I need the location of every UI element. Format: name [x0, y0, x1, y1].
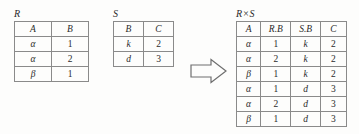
cell: k: [114, 37, 144, 52]
cell: β: [15, 67, 52, 82]
cell: β: [237, 112, 261, 127]
cell: k: [291, 67, 320, 82]
cell: α: [237, 37, 261, 52]
relation-RxS-table: A R.B S.B C α 1 k 2 α 2 k 2: [236, 21, 347, 127]
table-row: α 2 k 2: [237, 52, 347, 67]
relation-R-table: A B α 1 α 2 β 1: [14, 21, 89, 82]
relation-S-table: B C k 2 d 3: [113, 21, 174, 67]
table-header-row: A B: [15, 22, 89, 37]
cell: 2: [144, 37, 174, 52]
table-row: α 2 d 3: [237, 97, 347, 112]
cell: 2: [261, 97, 291, 112]
table-row: α 1 d 3: [237, 82, 347, 97]
table-row: β 1 k 2: [237, 67, 347, 82]
relation-S: S B C k 2 d 3: [113, 8, 174, 67]
cell: 2: [320, 52, 346, 67]
column-header-B: B: [52, 22, 89, 37]
relation-RxS: R×S A R.B S.B C α 1 k 2: [236, 8, 347, 127]
table-row: k 2: [114, 37, 174, 52]
table-row: α 1 k 2: [237, 37, 347, 52]
table-header-row: B C: [114, 22, 174, 37]
cell: 3: [320, 112, 346, 127]
cell: d: [114, 52, 144, 67]
cell: 1: [261, 37, 291, 52]
column-header-C: C: [320, 22, 346, 37]
relation-R-title: R: [14, 8, 89, 19]
cell: β: [237, 67, 261, 82]
cell: 3: [320, 97, 346, 112]
cell: α: [237, 52, 261, 67]
cell: α: [237, 97, 261, 112]
column-header-A: A: [15, 22, 52, 37]
column-header-C: C: [144, 22, 174, 37]
cell: d: [291, 97, 320, 112]
relation-R: R A B α 1 α 2 β 1: [14, 8, 89, 82]
cell: k: [291, 37, 320, 52]
table-row: α 2: [15, 52, 89, 67]
table-header-row: A R.B S.B C: [237, 22, 347, 37]
cell: d: [291, 82, 320, 97]
cell: d: [291, 112, 320, 127]
column-header-B: B: [114, 22, 144, 37]
figure-canvas: R A B α 1 α 2 β 1: [0, 0, 359, 134]
cell: 1: [261, 112, 291, 127]
table-row: α 1: [15, 37, 89, 52]
cell: 1: [52, 37, 89, 52]
cell: 1: [52, 67, 89, 82]
cell: α: [237, 82, 261, 97]
table-row: β 1 d 3: [237, 112, 347, 127]
table-row: d 3: [114, 52, 174, 67]
cell: 2: [320, 37, 346, 52]
cell: α: [15, 52, 52, 67]
cell: 1: [261, 67, 291, 82]
relation-RxS-title: R×S: [236, 8, 347, 19]
block-arrow-right-icon: [189, 57, 229, 85]
relation-S-title: S: [113, 8, 174, 19]
cell: k: [291, 52, 320, 67]
column-header-R-B: R.B: [261, 22, 291, 37]
column-header-A: A: [237, 22, 261, 37]
cell: α: [15, 37, 52, 52]
table-row: β 1: [15, 67, 89, 82]
column-header-S-B: S.B: [291, 22, 320, 37]
cell: 3: [144, 52, 174, 67]
cell: 2: [261, 52, 291, 67]
cell: 2: [52, 52, 89, 67]
cell: 2: [320, 67, 346, 82]
cell: 1: [261, 82, 291, 97]
cell: 3: [320, 82, 346, 97]
